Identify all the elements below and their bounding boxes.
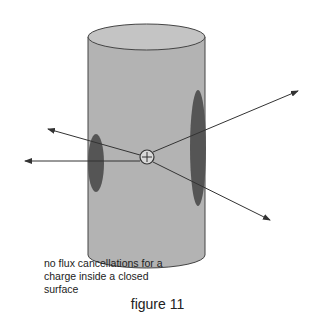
point-charge: [140, 150, 154, 164]
diagram-caption: no flux cancellations for a charge insid…: [44, 257, 244, 296]
caption-line: surface: [44, 283, 244, 296]
caption-line: charge inside a closed: [44, 270, 244, 283]
caption-line: no flux cancellations for a: [44, 257, 244, 270]
cylinder-top: [88, 24, 205, 50]
figure-label: figure 11: [0, 296, 315, 312]
flux-patch-right: [190, 90, 206, 206]
cylinder: [88, 24, 205, 268]
